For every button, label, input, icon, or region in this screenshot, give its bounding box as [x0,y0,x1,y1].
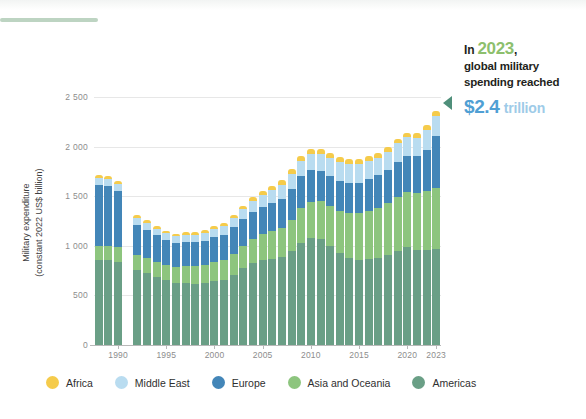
bar-segment-middleeast [336,162,344,181]
bar-segment-middleeast [413,138,421,156]
bar-segment-middleeast [172,236,180,243]
bar[interactable] [95,175,103,345]
bar-segment-asia [403,192,411,248]
x-axis-tick-mark [263,345,264,349]
bar-segment-asia [210,262,218,281]
x-axis-tick-label: 2000 [205,350,225,360]
bar-segment-asia [230,254,238,275]
bar-segment-middleeast [230,218,238,227]
bar-segment-europe [336,181,344,211]
bar-segment-europe [297,176,305,208]
bar-segment-europe [423,150,431,192]
bar-segment-middleeast [403,137,411,155]
bar-segment-americas [394,251,402,345]
bar[interactable] [259,191,267,345]
legend-swatch-icon [212,376,225,389]
bar-segment-europe [374,175,382,207]
bar-segment-americas [153,277,161,345]
bar-segment-americas [317,239,325,345]
bar[interactable] [345,159,353,345]
bar-segment-europe [326,176,334,206]
y-axis-ticks: 05001 0001 5002 0002 500 [30,97,88,345]
bar[interactable] [191,232,199,345]
bar[interactable] [307,149,315,345]
legend-swatch-icon [288,376,301,389]
bar-segment-europe [114,191,122,247]
bar[interactable] [172,234,180,345]
bar-segment-middleeast [191,235,199,242]
bar-segment-middleeast [297,161,305,177]
bar[interactable] [365,156,373,345]
bar[interactable] [336,157,344,345]
bar[interactable] [153,226,161,345]
bar-segment-europe [133,225,141,255]
bar-segment-europe [317,171,325,201]
bar-segment-europe [384,170,392,203]
bar[interactable] [143,220,151,345]
y-axis-tick-label: 1 000 [30,241,88,251]
x-axis-tick-mark [359,345,360,349]
bar[interactable] [114,181,122,345]
bar[interactable] [326,153,334,345]
bar-segment-europe [162,240,170,265]
bar-segment-asia [239,246,247,268]
bar[interactable] [182,232,190,345]
bar[interactable] [374,153,382,345]
bar-segment-asia [365,211,373,260]
bar[interactable] [230,215,238,345]
bar-segment-europe [355,183,363,213]
bar-segment-asia [413,193,421,250]
bar-segment-americas [432,249,440,345]
bar-segment-americas [230,275,238,345]
bar-segment-europe [210,237,218,262]
bar[interactable] [162,231,170,345]
bar-segment-europe [259,207,267,235]
bar-segment-middleeast [288,174,296,189]
bar-segment-americas [355,260,363,345]
bar[interactable] [201,230,209,345]
bar[interactable] [403,133,411,345]
bar-segment-asia [394,197,402,251]
bar-segment-americas [182,283,190,345]
bar[interactable] [384,147,392,345]
bar[interactable] [133,215,141,345]
bar-segment-asia [201,265,209,283]
legend-item-asia-and-oceania[interactable]: Asia and Oceania [288,376,391,389]
x-axis-tick-label: 2015 [349,350,369,360]
legend-item-europe[interactable]: Europe [212,376,266,389]
bar[interactable] [268,186,276,345]
bar[interactable] [220,223,228,345]
bar[interactable] [355,159,363,345]
bar[interactable] [317,149,325,345]
bar-segment-asia [336,211,344,253]
bar-segment-asia [384,203,392,255]
bar-segment-asia [432,188,440,249]
bar-segment-middleeast [239,209,247,219]
legend-item-americas[interactable]: Americas [412,376,476,389]
legend-item-middle-east[interactable]: Middle East [115,376,190,389]
bar[interactable] [278,180,286,345]
bar[interactable] [288,169,296,345]
y-axis-tick-label: 2 500 [30,92,88,102]
legend-swatch-icon [115,376,128,389]
bar[interactable] [104,176,112,345]
x-axis-line [90,345,441,346]
bar[interactable] [432,111,440,345]
legend-item-africa[interactable]: Africa [46,376,93,389]
bar-segment-europe [191,242,199,266]
bar-segment-asia [374,208,382,258]
bar[interactable] [249,197,257,345]
bar-segment-americas [114,262,122,345]
bar-segment-middleeast [162,233,170,240]
y-axis-tick-label: 0 [30,340,88,350]
bar[interactable] [239,206,247,345]
bar[interactable] [394,139,402,345]
bar-segment-asia [95,246,103,259]
bar-segment-europe [413,156,421,193]
legend-label: Africa [66,377,93,389]
bar[interactable] [413,133,421,345]
bar[interactable] [210,226,218,345]
y-axis-tick-label: 2 000 [30,142,88,152]
bar[interactable] [423,125,431,345]
bar[interactable] [297,156,305,345]
